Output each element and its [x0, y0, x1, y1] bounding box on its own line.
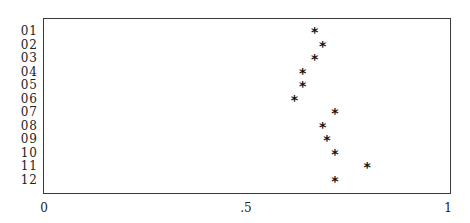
asterisk-marker: * — [319, 38, 326, 52]
y-tick-label: 05 — [8, 79, 38, 91]
plot-frame — [43, 18, 451, 194]
x-tick-label: 1 — [444, 202, 452, 214]
y-tick-label: 03 — [8, 52, 38, 64]
y-tick-label: 04 — [8, 66, 38, 78]
y-tick-label: 06 — [8, 93, 38, 105]
y-tick-label: 10 — [8, 147, 38, 159]
asterisk-marker: * — [364, 160, 371, 174]
asterisk-marker: * — [299, 79, 306, 93]
y-tick-label: 01 — [8, 25, 38, 37]
y-tick-label: 11 — [8, 160, 38, 172]
asterisk-marker: * — [331, 173, 338, 187]
y-tick-label: 08 — [8, 120, 38, 132]
y-tick-label: 07 — [8, 106, 38, 118]
x-tick-label: .5 — [240, 202, 251, 214]
asterisk-marker: * — [291, 92, 298, 106]
asterisk-marker: * — [311, 25, 318, 39]
asterisk-marker: * — [323, 133, 330, 147]
asterisk-marker: * — [331, 146, 338, 160]
x-tick-label: 0 — [40, 202, 48, 214]
asterisk-marker: * — [311, 52, 318, 66]
asterisk-marker: * — [331, 106, 338, 120]
y-tick-label: 12 — [8, 174, 38, 186]
y-tick-label: 02 — [8, 39, 38, 51]
y-tick-label: 09 — [8, 133, 38, 145]
dot-plot: 010203040506070809101112 0.51 **********… — [0, 0, 470, 223]
